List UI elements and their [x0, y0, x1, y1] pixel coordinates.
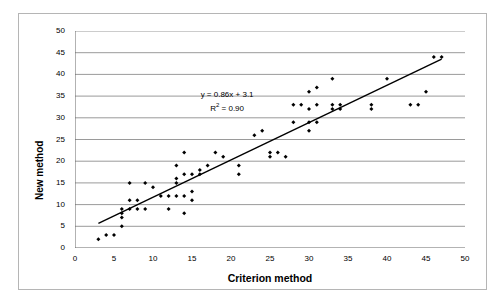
r-squared-line: R2 = 0.90 — [180, 100, 274, 114]
x-tick-label: 10 — [142, 255, 164, 263]
x-tick-label: 15 — [181, 255, 203, 263]
y-tick-label: 40 — [43, 70, 65, 78]
data-point-marker — [120, 207, 124, 211]
x-tick-label: 30 — [298, 255, 320, 263]
x-tick-label: 40 — [376, 255, 398, 263]
y-tick-label: 20 — [43, 157, 65, 165]
y-tick-label: 0 — [43, 244, 65, 252]
data-point-marker — [385, 77, 389, 81]
data-point-marker — [237, 172, 241, 176]
data-point-marker — [260, 129, 264, 133]
y-axis-title-wrap: New method — [20, 90, 34, 200]
data-point-marker — [174, 177, 178, 181]
y-axis-title: New method — [34, 141, 45, 200]
data-point-marker — [143, 181, 147, 185]
data-point-marker — [369, 107, 373, 111]
gridlines — [75, 31, 465, 226]
chart-figure: New method Criterion method 051015202530… — [0, 0, 503, 306]
data-point-marker — [221, 155, 225, 159]
trendline-segment — [98, 59, 441, 223]
r-squared-value: = 0.90 — [219, 103, 244, 112]
data-point-marker — [143, 207, 147, 211]
x-axis-title: Criterion method — [75, 272, 465, 284]
data-point-marker — [424, 90, 428, 94]
data-point-marker — [120, 224, 124, 228]
x-tick-label: 45 — [415, 255, 437, 263]
data-point-marker — [174, 164, 178, 168]
data-point-marker — [299, 103, 303, 107]
scatter-plot-svg — [75, 31, 465, 248]
data-point-marker — [291, 103, 295, 107]
data-point-marker — [198, 168, 202, 172]
y-tick-label: 10 — [43, 201, 65, 209]
y-tick-label: 45 — [43, 49, 65, 57]
data-point-marker — [252, 133, 256, 137]
data-point-marker — [206, 164, 210, 168]
y-tick-label: 30 — [43, 114, 65, 122]
x-tick-label: 35 — [337, 255, 359, 263]
data-point-marker — [151, 185, 155, 189]
data-point-marker — [190, 172, 194, 176]
data-point-marker — [96, 237, 100, 241]
data-point-marker — [174, 181, 178, 185]
y-tick-label: 35 — [43, 92, 65, 100]
y-tick-label: 15 — [43, 179, 65, 187]
data-point-marker — [268, 155, 272, 159]
x-tick-label: 50 — [454, 255, 476, 263]
x-tick-label: 20 — [220, 255, 242, 263]
data-point-marker — [440, 55, 444, 59]
data-point-marker — [291, 120, 295, 124]
data-point-marker — [338, 103, 342, 107]
data-point-marker — [268, 151, 272, 155]
data-point-marker — [190, 190, 194, 194]
data-point-marker — [307, 107, 311, 111]
data-point-marker — [167, 207, 171, 211]
data-point-marker — [167, 194, 171, 198]
data-point-marker — [120, 216, 124, 220]
data-point-marker — [213, 151, 217, 155]
regression-equation-annotation: y = 0.86x + 3.1 R2 = 0.90 — [180, 90, 274, 114]
data-point-marker — [182, 151, 186, 155]
data-point-marker — [135, 207, 139, 211]
data-point-marker — [330, 103, 334, 107]
data-point-marker — [128, 198, 132, 202]
data-point-marker — [307, 129, 311, 133]
y-tick-label: 50 — [43, 27, 65, 35]
data-point-marker — [174, 194, 178, 198]
data-point-marker — [369, 103, 373, 107]
data-point-marker — [112, 233, 116, 237]
data-point-marker — [315, 120, 319, 124]
data-point-marker — [237, 164, 241, 168]
data-point-marker — [128, 181, 132, 185]
data-point-marker — [330, 77, 334, 81]
data-point-marker — [182, 194, 186, 198]
data-point-marker — [135, 198, 139, 202]
data-point-marker — [315, 85, 319, 89]
data-point-marker — [190, 198, 194, 202]
data-point-marker — [307, 90, 311, 94]
data-point-marker — [315, 103, 319, 107]
trendline — [98, 59, 441, 223]
data-point-marker — [408, 103, 412, 107]
data-point-marker — [284, 155, 288, 159]
equation-line: y = 0.86x + 3.1 — [180, 90, 274, 100]
x-tick-label: 5 — [103, 255, 125, 263]
data-point-marker — [182, 172, 186, 176]
data-point-marker — [182, 211, 186, 215]
y-tick-label: 25 — [43, 136, 65, 144]
y-tick-label: 5 — [43, 222, 65, 230]
data-point-marker — [104, 233, 108, 237]
plot-area — [75, 31, 465, 248]
data-point-marker — [432, 55, 436, 59]
data-point-marker — [276, 151, 280, 155]
x-tick-label: 25 — [259, 255, 281, 263]
data-point-marker — [416, 103, 420, 107]
x-tick-label: 0 — [64, 255, 86, 263]
